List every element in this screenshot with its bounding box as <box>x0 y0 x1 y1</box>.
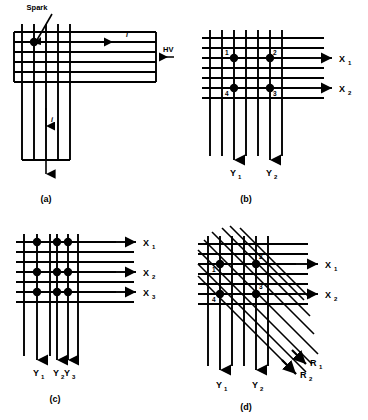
panel-b-horizontal-wires <box>202 38 324 98</box>
panel-b: X 1 X 2 Y 1 <box>184 0 368 210</box>
panel-c-y1-label: Y <box>33 368 39 378</box>
panel-d-spark-label: 3 <box>259 283 263 290</box>
panel-a-current-label-vertical: i <box>51 116 54 123</box>
panel-c-spark-point <box>53 288 61 296</box>
panel-c: X 1 X 2 X 3 <box>0 210 184 420</box>
panel-a: Spark i HV i (a) <box>0 0 184 210</box>
panel-c-spark-points <box>33 238 72 296</box>
panel-b-spark-label: 2 <box>273 49 277 56</box>
panel-b-x2-label: X <box>339 84 345 94</box>
panel-d-r2-arrow <box>282 360 296 374</box>
panel-a-hv-label: HV <box>163 45 173 54</box>
panel-c-spark-point <box>64 238 72 246</box>
panel-d-r1-label: R <box>310 358 317 368</box>
panel-c-x1-label: X <box>143 238 149 248</box>
panel-d: R 1 R 2 X 1 <box>184 210 368 420</box>
panel-c-y3-label: Y <box>64 368 70 378</box>
panel-c-spark-point <box>33 288 41 296</box>
panel-c-y3-subscript: 3 <box>72 374 76 380</box>
panel-d-spark-point <box>216 260 224 268</box>
panel-b-spark-label: 1 <box>225 49 229 56</box>
panel-c-x3-subscript: 3 <box>152 294 156 300</box>
panel-c-y1-subscript: 1 <box>41 374 45 380</box>
panel-d-spark-label: 2 <box>259 253 263 260</box>
panel-b-x1-label: X <box>339 54 345 64</box>
panel-c-spark-point <box>53 268 61 276</box>
panel-a-caption: (a) <box>41 194 52 204</box>
panel-c-x2-label: X <box>143 268 149 278</box>
panel-a-spark-leader <box>37 14 52 40</box>
panel-d-y2-label: Y <box>252 380 258 390</box>
panel-c-spark-point <box>33 238 41 246</box>
panel-b-y1-subscript: 1 <box>238 174 242 180</box>
panel-d-y1-label: Y <box>216 380 222 390</box>
panel-d-r2-label: R <box>300 370 307 380</box>
panel-d-spark-point <box>216 290 224 298</box>
panel-d-y1-subscript: 1 <box>224 386 228 392</box>
panel-b-x1-subscript: 1 <box>348 60 352 66</box>
panel-c-x1-subscript: 1 <box>152 244 156 250</box>
panel-d-x1-label: X <box>325 260 331 270</box>
panel-d-caption: (d) <box>240 402 252 412</box>
panel-c-x2-subscript: 2 <box>152 274 156 280</box>
panel-b-spark-label: 4 <box>225 90 229 97</box>
panel-b-spark-point <box>230 54 238 62</box>
panel-b-caption: (b) <box>240 194 252 204</box>
panel-d-r1-subscript: 1 <box>319 364 323 370</box>
panel-d-x2-label: X <box>325 290 331 300</box>
panel-b-y1-label: Y <box>230 168 236 178</box>
panel-b-x2-subscript: 2 <box>348 90 352 96</box>
panel-b-spark-point <box>230 84 238 92</box>
panel-a-vertical-wires <box>22 24 70 160</box>
panel-d-spark-label: 4 <box>212 296 216 303</box>
figure-spark-chamber-readout: Spark i HV i (a) <box>0 0 368 420</box>
panel-a-current-arrow-vertical: i <box>46 108 54 126</box>
panel-c-spark-point <box>33 268 41 276</box>
panel-d-spark-point <box>252 290 260 298</box>
panel-c-x3-label: X <box>143 288 149 298</box>
panel-b-y2-subscript: 2 <box>274 174 278 180</box>
panel-c-caption: (c) <box>50 394 61 404</box>
panel-c-spark-point <box>64 268 72 276</box>
panel-d-x2-subscript: 2 <box>334 296 338 302</box>
panel-d-y2-subscript: 2 <box>260 386 264 392</box>
panel-d-r2-subscript: 2 <box>309 376 313 382</box>
panel-c-spark-point <box>53 238 61 246</box>
panel-a-spark-label: Spark <box>27 3 49 12</box>
panel-b-spark-label: 3 <box>273 90 277 97</box>
panel-d-diagonal-wires <box>198 226 318 374</box>
panel-d-spark-label: 1 <box>212 266 216 273</box>
panel-c-spark-point <box>64 288 72 296</box>
panel-d-x1-subscript: 1 <box>334 266 338 272</box>
panel-d-spark-point <box>252 260 260 268</box>
panel-b-y2-label: Y <box>266 168 272 178</box>
panel-c-y2-label: Y <box>53 368 59 378</box>
